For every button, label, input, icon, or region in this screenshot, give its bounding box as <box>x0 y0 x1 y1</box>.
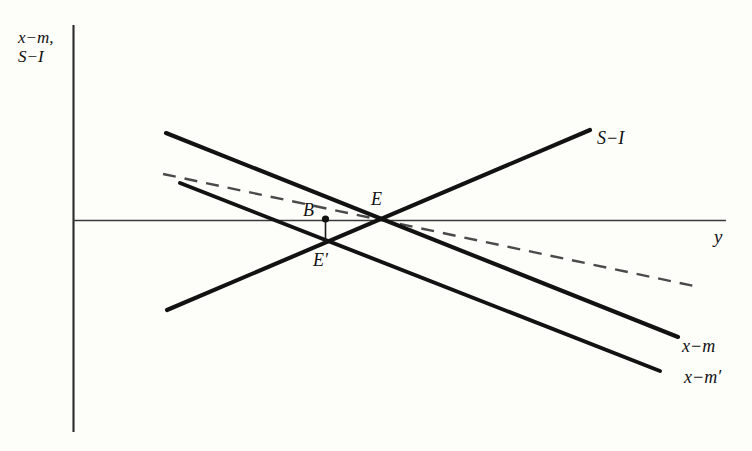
curve-label-x-minus-m-prime: x−m′ <box>684 367 721 387</box>
point-label-e-prime: E′ <box>313 250 328 270</box>
point-b-marker <box>322 215 329 222</box>
y-axis-label-line1: x−m, <box>18 28 68 47</box>
y-axis-label: x−m, S−I <box>18 28 68 66</box>
x-minus-m-prime-line <box>180 183 660 371</box>
diagram-canvas <box>0 0 752 451</box>
curve-label-s-minus-i: S−I <box>597 128 624 148</box>
point-label-e: E <box>371 189 382 209</box>
point-label-b: B <box>303 200 314 220</box>
y-axis-label-line2: S−I <box>18 47 68 66</box>
x-axis-label: y <box>714 226 722 247</box>
dashed-schedule-line <box>163 174 694 286</box>
curve-label-x-minus-m: x−m <box>682 336 715 356</box>
economics-diagram: x−m, S−I y S−I x−m x−m′ E B E′ <box>0 0 752 451</box>
x-minus-m-line <box>166 133 678 337</box>
